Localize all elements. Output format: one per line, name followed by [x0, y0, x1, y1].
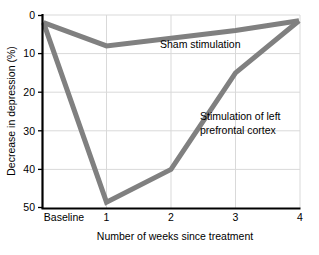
- chart-container: 0 10 20 30 40 50 Baseline 1 2 3 4 Decrea…: [0, 0, 319, 255]
- x-tick-label-3: 3: [233, 211, 239, 223]
- y-tick-label-20: 20: [23, 86, 35, 98]
- annotation-sham-stimulation: Sham stimulation: [160, 38, 241, 50]
- annotation-treatment-line-2: prefrontal cortex: [200, 124, 277, 136]
- x-tick-label-4: 4: [297, 211, 303, 223]
- y-tick-label-30: 30: [23, 125, 35, 137]
- depression-line-chart: 0 10 20 30 40 50 Baseline 1 2 3 4 Decrea…: [0, 0, 319, 255]
- y-axis-title: Decrease in depression (%): [5, 46, 17, 176]
- x-tick-label-1: 1: [104, 211, 110, 223]
- x-tick-label-2: 2: [168, 211, 174, 223]
- y-tick-label-40: 40: [23, 163, 35, 175]
- x-axis-title: Number of weeks since treatment: [97, 230, 253, 242]
- y-tick-label-50: 50: [23, 201, 35, 213]
- x-tick-label-baseline: Baseline: [44, 211, 84, 223]
- y-tick-label-0: 0: [29, 9, 35, 21]
- y-tick-label-10: 10: [23, 47, 35, 59]
- annotation-treatment-line-1: Stimulation of left: [200, 110, 281, 122]
